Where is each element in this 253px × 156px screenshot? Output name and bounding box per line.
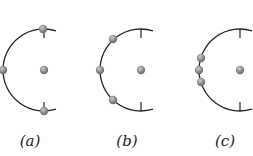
panel-b [96,29,153,111]
charged-particle [39,25,47,33]
panel-c [195,29,252,111]
charged-particle [0,66,7,74]
panel-label-a: (a) [20,132,41,150]
charged-particle [197,78,205,86]
center-particle [137,66,145,74]
charged-particle [195,66,203,74]
panel-label-c: (c) [215,132,235,150]
charged-particle [197,54,205,62]
charged-particle [96,66,104,74]
center-particle [236,66,244,74]
charged-particle [109,35,117,43]
charged-particle [40,107,48,115]
panel-label-b: (b) [116,132,137,150]
panel-a [0,25,56,115]
charged-particle [109,96,117,104]
center-particle [40,66,48,74]
